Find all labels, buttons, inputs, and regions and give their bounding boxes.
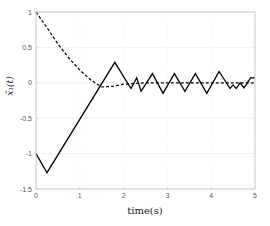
x-axis-label: time(s) xyxy=(127,205,163,216)
axes-box xyxy=(36,12,255,189)
x-tick-label: 4 xyxy=(209,192,213,199)
x-tick-label: 0 xyxy=(34,192,38,199)
grid-lines xyxy=(36,12,255,189)
x-tick-label: 3 xyxy=(165,192,169,199)
y-tick-label: 1 xyxy=(28,9,32,16)
y-tick-label: 0.5 xyxy=(22,44,32,51)
x-tick-label: 5 xyxy=(253,192,257,199)
y-axis-label: x̃₁(t) xyxy=(5,76,15,96)
x-tick-label: 1 xyxy=(78,192,82,199)
y-tick-label: -1 xyxy=(26,150,32,157)
y-tick-label: -1.5 xyxy=(20,186,32,193)
x-tick-label: 2 xyxy=(122,192,126,199)
line-chart: 012345 -1.5-1-0.500.51 time(s) x̃₁(t) xyxy=(0,0,270,226)
series-solid xyxy=(36,62,255,172)
plot-area xyxy=(36,12,255,173)
y-axis-ticks: -1.5-1-0.500.51 xyxy=(20,9,38,193)
y-tick-label: 0 xyxy=(28,79,32,86)
y-tick-label: -0.5 xyxy=(20,115,32,122)
